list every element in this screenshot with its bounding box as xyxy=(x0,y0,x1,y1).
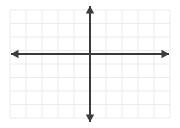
coordinate-plane-svg xyxy=(0,0,180,128)
coordinate-plane-figure xyxy=(0,0,180,128)
